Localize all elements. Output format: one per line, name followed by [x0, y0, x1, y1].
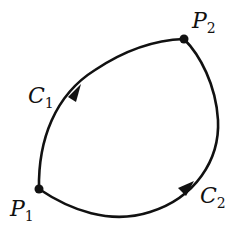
curve-c2 — [39, 39, 218, 217]
point-p1 — [35, 185, 44, 194]
label-c1: C1 — [28, 83, 54, 111]
point-p2 — [180, 35, 189, 44]
label-c2: C2 — [200, 183, 226, 211]
curve-c1 — [39, 39, 184, 189]
closed-path-diagram: P1 P2 C1 C2 — [0, 0, 237, 229]
label-p2: P2 — [191, 8, 216, 36]
label-p1: P1 — [9, 196, 34, 224]
